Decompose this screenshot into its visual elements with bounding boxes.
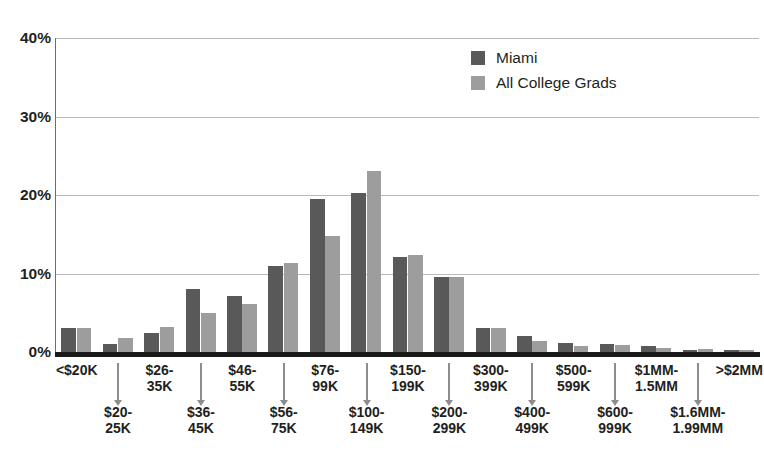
bar-group	[227, 38, 258, 352]
x-axis-label: $36- 45K	[159, 405, 243, 436]
bar-miami	[641, 346, 656, 352]
bar-miami	[476, 328, 491, 352]
bar-miami	[683, 350, 698, 352]
legend-item[interactable]: All College Grads	[471, 70, 681, 95]
bar-miami	[227, 296, 242, 352]
bar-group	[351, 38, 382, 352]
bar-grads	[698, 349, 713, 352]
y-axis-tick-0: 0%	[5, 344, 51, 360]
bar-miami	[268, 266, 283, 352]
x-axis-label: $46- 55K	[200, 363, 284, 394]
bar-miami	[434, 277, 449, 352]
bar-group	[310, 38, 341, 352]
bar-grads	[325, 236, 340, 352]
legend-label: All College Grads	[496, 75, 617, 91]
bar-grads	[449, 277, 464, 352]
bar-miami	[558, 343, 573, 352]
bar-group	[393, 38, 424, 352]
legend-swatch-icon	[471, 51, 485, 65]
x-axis-label: $200- 299K	[407, 405, 491, 436]
bar-grads	[656, 348, 671, 352]
x-axis-labels: <$20K$20- 25K$26- 35K$36- 45K$46- 55K$56…	[56, 357, 760, 450]
y-axis-tick-40: 40%	[5, 30, 51, 46]
bar-miami	[517, 336, 532, 352]
x-axis-label: $26- 35K	[118, 363, 202, 394]
bar-grads	[242, 304, 257, 352]
bar-grads	[160, 327, 175, 352]
x-axis-label: $400- 499K	[490, 405, 574, 436]
bar-grads	[739, 350, 754, 352]
x-axis-label: $500- 599K	[532, 363, 616, 394]
bar-miami	[144, 333, 159, 352]
bar-group	[268, 38, 299, 352]
bar-grads	[532, 341, 547, 352]
y-axis-tick-20: 20%	[5, 187, 51, 203]
x-axis-label: $600- 999K	[573, 405, 657, 436]
bar-grads	[574, 346, 589, 352]
bar-grads	[77, 328, 92, 352]
bar-group	[144, 38, 175, 352]
legend-swatch-icon	[471, 76, 485, 90]
bar-miami	[724, 350, 739, 352]
bar-grads	[201, 313, 216, 352]
bar-grads	[367, 171, 382, 352]
bar-miami	[310, 199, 325, 352]
y-axis-tick-10: 10%	[5, 266, 51, 282]
x-axis-label: $20- 25K	[76, 405, 160, 436]
bar-grads	[408, 255, 423, 352]
income-distribution-bar-chart: 0%10%20%30%40% MiamiAll College Grads <$…	[0, 0, 764, 450]
bar-grads	[284, 263, 299, 352]
legend-label: Miami	[496, 50, 537, 66]
bar-group	[103, 38, 134, 352]
legend-item[interactable]: Miami	[471, 45, 681, 70]
x-axis-label: <$20K	[35, 363, 119, 379]
chart-legend: MiamiAll College Grads	[471, 45, 681, 95]
bar-group	[61, 38, 92, 352]
bar-group	[683, 38, 714, 352]
x-axis-label: $150- 199K	[366, 363, 450, 394]
x-axis-label: $76- 99K	[283, 363, 367, 394]
y-axis-tick-labels: 0%10%20%30%40%	[0, 0, 51, 450]
bar-miami	[61, 328, 76, 352]
x-axis-label: $100- 149K	[325, 405, 409, 436]
bar-miami	[600, 344, 615, 352]
bar-group	[724, 38, 755, 352]
x-axis-label: $1MM- 1.5MM	[614, 363, 698, 394]
bar-miami	[186, 289, 201, 352]
x-axis-label: >$2MM	[697, 363, 764, 379]
x-axis-label: $300- 399K	[449, 363, 533, 394]
bar-miami	[103, 344, 118, 352]
bar-grads	[491, 328, 506, 352]
x-axis-label: $1.6MM- 1.99MM	[656, 405, 740, 436]
bar-miami	[351, 193, 366, 352]
bar-grads	[118, 338, 133, 352]
bar-grads	[615, 345, 630, 352]
bar-group	[434, 38, 465, 352]
y-axis-tick-30: 30%	[5, 109, 51, 125]
bar-miami	[393, 257, 408, 352]
bar-group	[186, 38, 217, 352]
x-axis-label: $56- 75K	[242, 405, 326, 436]
